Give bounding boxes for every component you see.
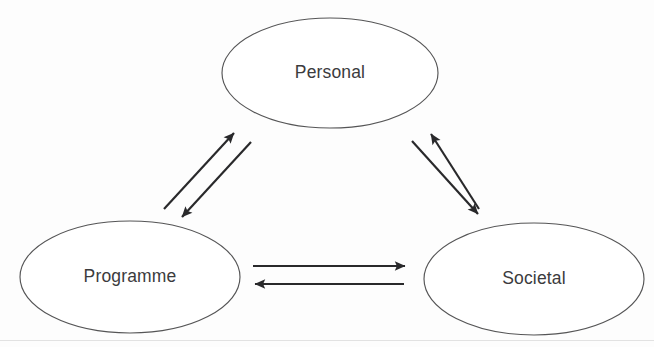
- node-societal[interactable]: Societal: [424, 223, 644, 335]
- edge-personal-to-societal: [412, 141, 478, 214]
- triad-diagram-svg: Personal Programme Societal: [0, 0, 654, 347]
- node-societal-label: Societal: [502, 268, 565, 288]
- node-personal-label: Personal: [295, 62, 365, 82]
- diagram-canvas: Personal Programme Societal: [0, 0, 654, 347]
- node-programme[interactable]: Programme: [20, 221, 240, 333]
- node-programme-label: Programme: [84, 266, 177, 286]
- node-group: Personal Programme Societal: [20, 18, 644, 335]
- node-personal[interactable]: Personal: [222, 18, 438, 128]
